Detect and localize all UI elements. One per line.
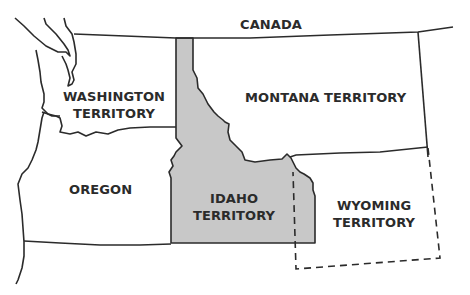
montana-south-border (290, 147, 428, 157)
washington-territory-label: WASHINGTON TERRITORY (63, 88, 165, 122)
idaho-label-line2: TERRITORY (193, 207, 275, 224)
idaho-territory-label: IDAHO TERRITORY (193, 190, 275, 224)
washington-label-line2: TERRITORY (63, 105, 165, 122)
washington-coast (15, 18, 70, 56)
wyoming-label-line2: TERRITORY (333, 214, 415, 231)
idaho-label-line1: IDAHO (193, 190, 275, 207)
wyoming-label-line1: WYOMING (333, 197, 415, 214)
montana-territory-label: MONTANA TERRITORY (245, 89, 406, 106)
washington-label-line1: WASHINGTON (63, 88, 165, 105)
washington-west-coast (36, 50, 60, 116)
montana-east-border (418, 32, 428, 157)
wyoming-territory-label: WYOMING TERRITORY (333, 197, 415, 231)
oregon-south-border (24, 241, 171, 245)
territory-map (0, 0, 470, 295)
oregon-label: OREGON (69, 181, 132, 198)
oregon-coast (16, 112, 44, 284)
canada-label: CANADA (240, 16, 302, 33)
